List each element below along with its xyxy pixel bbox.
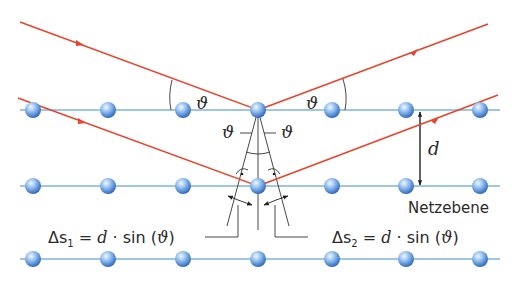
atom [250, 251, 266, 267]
atom [100, 178, 116, 194]
atom [398, 102, 414, 118]
atom [324, 178, 340, 194]
atom [175, 251, 191, 267]
theta-label-right: ϑ [306, 93, 318, 113]
theta-arc-left [170, 80, 172, 110]
atom [25, 102, 41, 118]
ray-2-reflected [258, 95, 498, 186]
atom [175, 178, 191, 194]
d-spacing-label: d [428, 138, 440, 159]
right-angle-dot-left [241, 173, 244, 176]
atom [472, 102, 488, 118]
atom [25, 178, 41, 194]
atom [100, 102, 116, 118]
theta-arc-right [343, 79, 346, 110]
atom [25, 251, 41, 267]
delta-s2-formula: Δs2 = d · sin (ϑ) [332, 228, 459, 249]
atom [398, 251, 414, 267]
ray-1-reflected-arrow-icon [410, 49, 418, 56]
leader-delta-s1 [205, 205, 238, 237]
bragg-diagram: ϑ ϑ ϑ ϑ d Netzebene Δs1 = d · sin (ϑ) Δs… [0, 0, 522, 291]
delta-s1-arrow-a [228, 196, 238, 200]
atom [100, 251, 116, 267]
plane-label: Netzebene [408, 199, 489, 217]
ray-1-reflected [258, 24, 488, 110]
atom [250, 178, 266, 194]
theta-label-inner-left: ϑ [222, 122, 234, 142]
atom [324, 251, 340, 267]
ray-2-incident [18, 98, 258, 186]
atom [250, 102, 266, 118]
ray-1-incident [20, 22, 258, 110]
delta-s2-arrow-b [264, 200, 276, 205]
atom [472, 251, 488, 267]
atom [324, 102, 340, 118]
atom [398, 178, 414, 194]
atom [472, 178, 488, 194]
theta-label-inner-right: ϑ [281, 122, 293, 142]
right-angle-dot-right [273, 173, 276, 176]
delta-s1-formula: Δs1 = d · sin (ϑ) [48, 228, 175, 249]
ray-1-incident-arrow-icon [76, 40, 84, 46]
delta-s1-arrow-b [238, 200, 252, 205]
atom [175, 102, 191, 118]
leader-delta-s2 [275, 205, 308, 237]
theta-label-left: ϑ [196, 93, 208, 113]
ray-2-incident-arrow-icon [78, 118, 86, 124]
